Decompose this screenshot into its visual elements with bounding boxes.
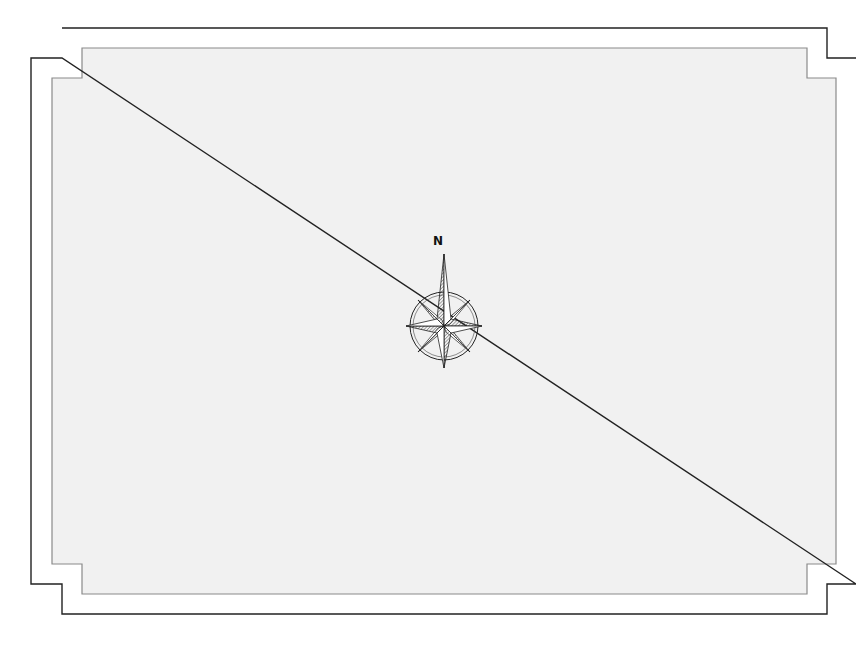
map-layout-frame [0, 0, 856, 660]
north-label: N [430, 234, 446, 248]
